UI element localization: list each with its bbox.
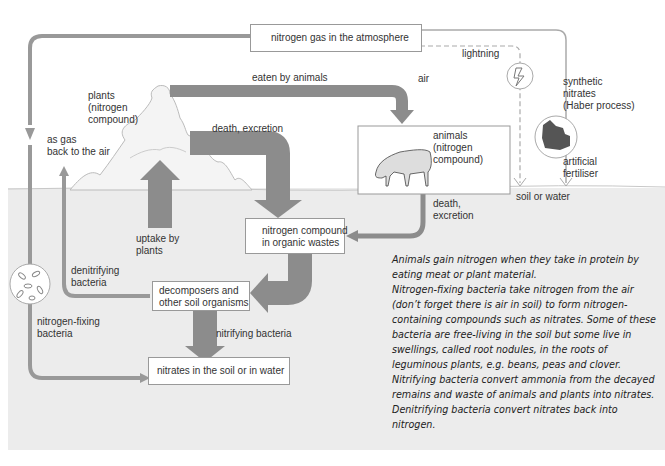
eaten-by-animals-label: eaten by animals — [252, 72, 328, 84]
air-label: air — [418, 73, 429, 85]
bacteria-icon — [10, 264, 50, 304]
nitrates-box: nitrates in the soil or in water — [148, 357, 290, 385]
factory-icon — [535, 116, 577, 158]
as-gas-label: as gas back to the air — [47, 134, 110, 158]
decomposers-box: decomposers and other soil organisms — [152, 281, 250, 311]
atmosphere-box: nitrogen gas in the atmosphere — [250, 24, 422, 52]
explanation-notes: Animals gain nitrogen when they take in … — [392, 252, 662, 432]
death-excretion-plants-label: death, excretion — [212, 123, 283, 135]
animals-label: animals (nitrogen compound) — [433, 130, 483, 166]
plants-label: plants (nitrogen compound) — [88, 90, 138, 126]
uptake-label: uptake by plants — [136, 233, 179, 257]
nitrogen-fixing-label: nitrogen-fixing bacteria — [37, 316, 100, 340]
organic-wastes-box: nitrogen compound in organic wastes — [245, 218, 345, 254]
nitrifying-label: nitrifying bacteria — [216, 328, 292, 340]
note-denitrifying: Denitrifying bacteria convert nitrates b… — [392, 402, 662, 432]
denitrifying-label: denitrifying bacteria — [71, 265, 119, 289]
lightning-icon — [507, 63, 533, 89]
note-nitrogen-fixing: Nitrogen-fixing bacteria take nitrogen f… — [392, 282, 662, 372]
synthetic-nitrates-label: synthetic nitrates (Haber process) — [563, 76, 635, 112]
note-animals: Animals gain nitrogen when they take in … — [392, 252, 662, 282]
soil-or-water-label: soil or water — [516, 191, 570, 203]
artificial-fertiliser-label: artificial fertiliser — [563, 156, 598, 180]
lightning-label: lightning — [462, 48, 499, 60]
note-nitrifying: Nitrifying bacteria convert ammonia from… — [392, 372, 662, 402]
death-excretion-animals-label: death, excretion — [433, 198, 474, 222]
